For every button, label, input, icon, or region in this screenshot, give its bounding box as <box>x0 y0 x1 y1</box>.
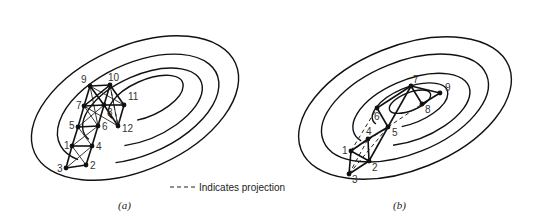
panel-a-contours <box>9 7 260 210</box>
panel-a-node-5 <box>76 125 81 130</box>
panel-a-node-label: 11 <box>128 91 139 102</box>
panel-a-node-label: 3 <box>57 163 63 174</box>
panel-b-node-label: 6 <box>374 111 380 122</box>
panel-a-node-label: 6 <box>102 121 108 132</box>
contour-b-3 <box>343 59 480 161</box>
panel-b-edge <box>388 86 411 127</box>
panel-a-node-label: 1 <box>64 140 70 151</box>
panel-b-node-5 <box>386 125 391 130</box>
panel-a-node-7 <box>82 104 87 109</box>
panel-a-edge <box>78 126 98 127</box>
panel-a-node-label: 2 <box>90 160 96 171</box>
contour-b-1 <box>278 9 532 208</box>
panel-b-edge <box>351 151 369 161</box>
panel-b-node-label: 8 <box>425 104 431 115</box>
panel-b-network: 123456789 <box>342 74 451 185</box>
panel-a-edge <box>90 85 110 86</box>
panel-b-node-label: 1 <box>342 145 348 156</box>
panel-b-edge <box>377 86 411 108</box>
panel-b-contours <box>278 9 532 208</box>
panel-a-edge <box>84 105 104 106</box>
panel-b-node-label: 5 <box>392 127 398 138</box>
panel-a-network: 123456789101112 <box>57 72 139 174</box>
panel-b-edge <box>368 139 369 161</box>
legend-text: Indicates projection <box>199 182 285 193</box>
caption-a: (a) <box>118 199 131 212</box>
figure-canvas: 123456789101112 123456789 Indicates proj… <box>0 0 535 222</box>
panel-b-projection <box>388 104 422 127</box>
panel-a-node-10 <box>108 83 113 88</box>
panel-a-node-2 <box>84 163 89 168</box>
panel-a-node-11 <box>122 103 127 108</box>
panel-a-node-label: 10 <box>108 72 120 83</box>
panel-b-node-9 <box>438 91 443 96</box>
panel-a-node-label: 5 <box>69 120 75 131</box>
panel-b-node-3 <box>347 172 352 177</box>
panel-a-cross-edge <box>78 127 92 146</box>
panel-b-node-label: 2 <box>372 162 378 173</box>
panel-a-node-label: 4 <box>96 141 102 152</box>
panel-a-node-9 <box>88 84 93 89</box>
caption-b: (b) <box>393 199 406 212</box>
contour-b-2 <box>306 32 504 183</box>
panel-a-node-6 <box>96 124 101 129</box>
panel-b-node-label: 3 <box>352 174 358 185</box>
panel-a-node-8 <box>102 103 107 108</box>
panel-a-node-label: 8 <box>107 107 113 118</box>
panel-a-node-3 <box>64 166 69 171</box>
panel-a-node-label: 7 <box>76 100 82 111</box>
panel-b-edge <box>351 139 368 151</box>
panel-b-node-1 <box>349 149 354 154</box>
panel-b-node-4 <box>366 137 371 142</box>
panel-a-node-4 <box>90 144 95 149</box>
panel-b-node-8 <box>420 102 425 107</box>
panel-b-node-label: 9 <box>445 82 451 93</box>
panel-a-node-1 <box>70 144 75 149</box>
panel-a-cross-edge <box>72 146 86 165</box>
panel-b-node-label: 7 <box>413 74 419 85</box>
panel-a-node-12 <box>116 124 121 129</box>
contour-a-2 <box>41 32 236 186</box>
panel-a-node-label: 9 <box>81 74 87 85</box>
panel-b-node-6 <box>375 106 380 111</box>
panel-b-node-label: 4 <box>366 126 372 137</box>
contour-a-1 <box>9 7 260 210</box>
panel-b-node-2 <box>367 159 372 164</box>
legend: Indicates projection <box>170 182 285 193</box>
panel-a-node-label: 12 <box>122 123 134 134</box>
